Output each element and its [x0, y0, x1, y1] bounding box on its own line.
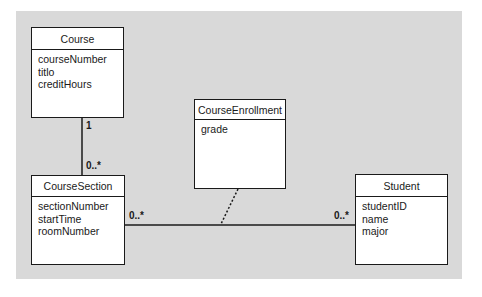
attribute: titlo [38, 66, 123, 79]
attribute-list: grade [195, 120, 285, 136]
attribute: grade [201, 123, 285, 136]
attribute: major [362, 225, 447, 238]
attribute: name [362, 213, 447, 226]
attribute: studentID [362, 200, 447, 213]
multiplicity-coursesection-to-student: 0..* [129, 210, 144, 221]
class-course-section[interactable]: CourseSection sectionNumber startTime ro… [31, 175, 125, 265]
attribute-list: sectionNumber startTime roomNumber [32, 197, 124, 238]
attribute: courseNumber [38, 53, 123, 66]
class-course[interactable]: Course courseNumber titlo creditHours [31, 27, 124, 118]
multiplicity-student: 0..* [334, 210, 349, 221]
class-name: CourseSection [32, 176, 124, 197]
multiplicity-coursesection-to-course: 0..* [86, 160, 101, 171]
multiplicity-course: 1 [86, 120, 92, 131]
attribute: creditHours [38, 78, 123, 91]
class-name: Course [32, 28, 123, 50]
attribute-list: studentID name major [356, 197, 447, 238]
attribute: roomNumber [38, 225, 124, 238]
class-name: CourseEnrollment [195, 100, 285, 120]
attribute: sectionNumber [38, 200, 124, 213]
class-name: Student [356, 175, 447, 197]
attribute-list: courseNumber titlo creditHours [32, 50, 123, 91]
class-course-enrollment[interactable]: CourseEnrollment grade [194, 99, 286, 189]
class-student[interactable]: Student studentID name major [355, 174, 448, 265]
attribute: startTime [38, 213, 124, 226]
